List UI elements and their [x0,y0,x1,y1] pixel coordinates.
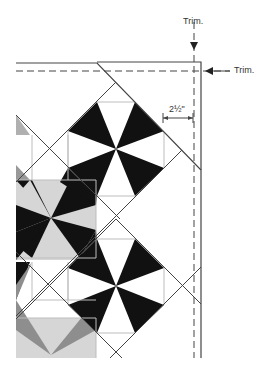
trim-label-right: Trim. [234,65,254,75]
quilt-corner-diagram [0,0,270,379]
dimension-label: 2½" [169,104,185,114]
arrow-down-icon [190,42,198,50]
arrow-left-icon [205,67,213,75]
trim-label-top: Trim. [183,16,203,26]
